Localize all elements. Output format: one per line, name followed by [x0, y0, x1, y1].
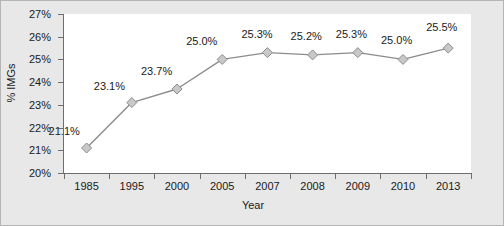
data-point-label: 25.5% [426, 22, 457, 33]
series-markers [82, 43, 454, 153]
data-point-label: 25.2% [291, 31, 322, 42]
data-point-label: 25.3% [241, 29, 272, 40]
data-point-label: 23.7% [141, 66, 172, 77]
series-marker [443, 43, 453, 53]
series-marker [353, 48, 363, 58]
data-point-label: 23.1% [94, 81, 125, 92]
chart-figure: 27%26%25%24%23%22%21%20% 198519952000200… [0, 0, 504, 226]
data-point-label: 21.1% [49, 126, 80, 137]
data-point-label: 25.0% [186, 36, 217, 47]
series-marker [308, 50, 318, 60]
series-line [87, 48, 449, 148]
series-marker [172, 84, 182, 94]
data-point-label: 25.3% [336, 29, 367, 40]
data-point-label: 25.0% [381, 35, 412, 46]
series-marker [398, 54, 408, 64]
series-marker [262, 48, 272, 58]
series-marker [217, 54, 227, 64]
